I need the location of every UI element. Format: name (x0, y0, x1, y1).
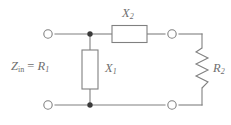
input-impedance-label: Zin = R1 (11, 60, 49, 73)
x2-base: X (122, 6, 130, 20)
x1-base: X (105, 61, 113, 75)
circuit-diagram: Zin = R1 X2 X1 R2 (0, 0, 231, 125)
load-resistance-label: R2 (213, 62, 225, 75)
junction-bottom (87, 102, 92, 107)
series-reactance-label: X2 (122, 7, 134, 20)
input-terminal-top[interactable] (44, 30, 52, 38)
r2-subscript: 2 (221, 67, 225, 76)
output-terminal-top[interactable] (168, 30, 176, 38)
zin-base: Z (11, 59, 18, 73)
x1-subscript: 1 (113, 67, 117, 76)
output-terminal-bottom[interactable] (168, 101, 176, 109)
r1-base: R (38, 59, 46, 73)
wires (55, 34, 202, 105)
r2-base: R (213, 61, 221, 75)
zin-equals: = (24, 59, 37, 73)
zin-subscript: in (18, 65, 24, 74)
input-terminal-bottom[interactable] (44, 101, 52, 109)
x2-subscript: 2 (130, 12, 134, 21)
shunt-reactance-label: X1 (105, 62, 117, 75)
shunt-reactance-x1-body (82, 50, 98, 89)
r1-subscript: 1 (45, 65, 49, 74)
load-resistor-r2-body (196, 48, 208, 88)
series-reactance-x2-body (112, 26, 147, 43)
junction-top (87, 31, 92, 36)
